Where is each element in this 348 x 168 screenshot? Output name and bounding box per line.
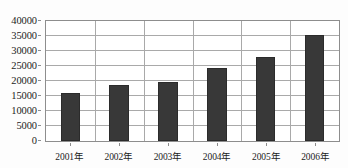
x-axis-tick-label: 2003年: [143, 149, 192, 163]
x-axis-tick-mark: [168, 143, 169, 146]
x-axis-cell: 2004年: [193, 143, 242, 165]
bar: [158, 82, 178, 141]
y-axis-tick-label: 25000: [11, 60, 37, 71]
x-axis-tick-mark: [119, 143, 120, 146]
y-axis-tick-mark: [38, 95, 41, 96]
y-axis-tick-label: 15000: [11, 90, 37, 101]
y-axis-tick-mark: [38, 125, 41, 126]
plot-area: [45, 20, 340, 142]
y-axis-tick-label: 30000: [11, 45, 37, 56]
bar: [207, 68, 227, 142]
y-axis-tick-mark: [38, 140, 41, 141]
y-axis-tick-label: 0: [32, 135, 37, 146]
y-axis-tick-label: 20000: [11, 75, 37, 86]
bar-cell: [241, 21, 290, 141]
bar-cell: [290, 21, 339, 141]
bar-cell: [144, 21, 193, 141]
y-axis-tick-label: 10000: [11, 105, 37, 116]
x-axis-tick-label: 2001年: [45, 149, 94, 163]
bars-container: [46, 21, 339, 141]
x-axis-tick-mark: [315, 143, 316, 146]
x-axis-tick-label: 2004年: [193, 149, 242, 163]
bar: [305, 35, 325, 141]
x-axis-tick-mark: [70, 143, 71, 146]
bar-cell: [46, 21, 95, 141]
x-axis-tick-label: 2006年: [291, 149, 340, 163]
x-axis: 2001年2002年2003年2004年2005年2006年: [45, 143, 340, 165]
x-axis-cell: 2005年: [242, 143, 291, 165]
y-axis-tick-mark: [38, 20, 41, 21]
bar: [109, 85, 129, 141]
y-axis-tick-label: 40000: [11, 15, 37, 26]
y-axis-tick-label: 35000: [11, 30, 37, 41]
bar-chart: 0500010000150002000025000300003500040000…: [0, 0, 348, 168]
y-axis-tick-mark: [38, 65, 41, 66]
x-axis-cell: 2001年: [45, 143, 94, 165]
x-axis-tick-label: 2005年: [242, 149, 291, 163]
y-axis: 0500010000150002000025000300003500040000: [0, 20, 41, 142]
x-axis-tick-label: 2002年: [94, 149, 143, 163]
y-axis-tick-mark: [38, 35, 41, 36]
x-axis-cell: 2006年: [291, 143, 340, 165]
y-axis-tick-mark: [38, 110, 41, 111]
x-axis-tick-mark: [217, 143, 218, 146]
x-axis-cell: 2003年: [143, 143, 192, 165]
y-axis-tick-mark: [38, 50, 41, 51]
bar-cell: [95, 21, 144, 141]
bar-cell: [192, 21, 241, 141]
x-axis-cell: 2002年: [94, 143, 143, 165]
bar: [256, 57, 276, 141]
x-axis-tick-mark: [266, 143, 267, 146]
bar: [61, 93, 81, 141]
y-axis-tick-mark: [38, 80, 41, 81]
y-axis-tick-label: 5000: [16, 120, 37, 131]
